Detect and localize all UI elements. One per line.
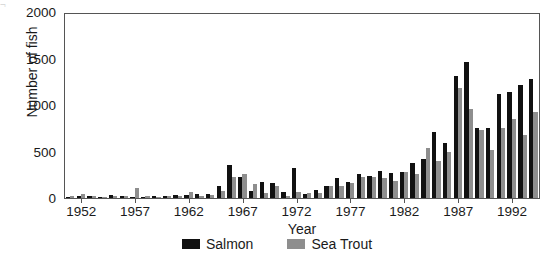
bar-sea-trout-1963 — [199, 196, 203, 198]
bar-sea-trout-1987 — [458, 88, 462, 198]
bar-sea-trout-1966 — [232, 177, 236, 198]
bar-sea-trout-1984 — [426, 148, 430, 198]
bar-sea-trout-1962 — [189, 192, 193, 198]
year-bar-group — [410, 14, 421, 198]
year-bar-group — [162, 14, 173, 198]
bar-sea-trout-1970 — [275, 186, 279, 198]
bar-sea-trout-1989 — [479, 130, 483, 198]
x-tick-mark — [297, 199, 298, 203]
bar-sea-trout-1960 — [167, 196, 171, 198]
y-tick-label: 0 — [0, 192, 64, 205]
year-bar-group — [442, 14, 453, 198]
legend-label: Salmon — [206, 236, 253, 252]
bar-sea-trout-1980 — [382, 178, 386, 198]
year-bar-group — [248, 14, 259, 198]
x-tick-mark — [404, 199, 405, 203]
year-bar-group — [76, 14, 87, 198]
x-tick-mark — [135, 199, 136, 203]
year-bar-group — [507, 14, 518, 198]
bar-sea-trout-1969 — [264, 193, 268, 198]
x-tick-label: 1982 — [380, 205, 428, 219]
x-tick-label: 1977 — [326, 205, 374, 219]
x-tick-mark — [512, 199, 513, 203]
bar-sea-trout-1976 — [339, 186, 343, 198]
bar-sea-trout-1990 — [490, 150, 494, 198]
year-bar-group — [517, 14, 528, 198]
x-axis-title: Year — [64, 221, 540, 237]
year-bar-group — [485, 14, 496, 198]
bar-sea-trout-1992 — [512, 119, 516, 198]
year-bar-group — [140, 14, 151, 198]
legend-swatch-icon — [287, 239, 305, 249]
legend-label: Sea Trout — [311, 236, 372, 252]
year-bar-group — [313, 14, 324, 198]
bar-sea-trout-1983 — [415, 174, 419, 198]
bars-area — [65, 14, 539, 198]
chart-legend: SalmonSea Trout — [0, 236, 554, 252]
year-bar-group — [173, 14, 184, 198]
year-bar-group — [453, 14, 464, 198]
legend-item-salmon[interactable]: Salmon — [182, 236, 253, 252]
year-bar-group — [334, 14, 345, 198]
x-tick-label: 1952 — [57, 205, 105, 219]
year-bar-group — [216, 14, 227, 198]
bar-sea-trout-1988 — [469, 109, 473, 198]
x-tick-label: 1957 — [111, 205, 159, 219]
y-tick-label: 2000 — [0, 6, 64, 19]
bar-sea-trout-1986 — [447, 152, 451, 198]
year-bar-group — [270, 14, 281, 198]
year-bar-group — [130, 14, 141, 198]
x-tick-label: 1967 — [219, 205, 267, 219]
year-bar-group — [356, 14, 367, 198]
year-bar-group — [227, 14, 238, 198]
year-bar-group — [291, 14, 302, 198]
year-bar-group — [431, 14, 442, 198]
x-tick-label: 1987 — [434, 205, 482, 219]
year-bar-group — [194, 14, 205, 198]
bar-sea-trout-1965 — [221, 191, 225, 198]
bar-sea-trout-1981 — [393, 181, 397, 198]
bar-sea-trout-1978 — [361, 177, 365, 198]
bar-sea-trout-1964 — [210, 195, 214, 198]
bar-sea-trout-1973 — [307, 193, 311, 198]
x-tick-mark — [458, 199, 459, 203]
bar-sea-trout-1955 — [113, 196, 117, 198]
year-bar-group — [302, 14, 313, 198]
year-bar-group — [464, 14, 475, 198]
year-bar-group — [119, 14, 130, 198]
y-tick-label: 500 — [0, 146, 64, 159]
year-bar-group — [345, 14, 356, 198]
x-tick-mark — [243, 199, 244, 203]
year-bar-group — [324, 14, 335, 198]
year-bar-group — [108, 14, 119, 198]
year-bar-group — [280, 14, 291, 198]
year-bar-group — [205, 14, 216, 198]
year-bar-group — [399, 14, 410, 198]
y-tick-label: 1000 — [0, 99, 64, 112]
x-tick-label: 1972 — [273, 205, 321, 219]
year-bar-group — [496, 14, 507, 198]
bar-sea-trout-1956 — [124, 196, 128, 198]
year-bar-group — [151, 14, 162, 198]
bar-sea-trout-1961 — [178, 196, 182, 198]
bar-sea-trout-1967 — [242, 174, 246, 198]
legend-item-sea-trout[interactable]: Sea Trout — [287, 236, 372, 252]
year-bar-group — [184, 14, 195, 198]
y-tick-label: 1500 — [0, 53, 64, 66]
bar-sea-trout-1993 — [523, 135, 527, 198]
bar-sea-trout-1952 — [81, 194, 85, 198]
year-bar-group — [97, 14, 108, 198]
legend-swatch-icon — [182, 239, 200, 249]
year-bar-group — [65, 14, 76, 198]
bar-sea-trout-1959 — [156, 197, 160, 198]
bar-sea-trout-1975 — [329, 186, 333, 198]
x-tick-mark — [350, 199, 351, 203]
bar-sea-trout-1972 — [296, 192, 300, 198]
year-bar-group — [377, 14, 388, 198]
fish-counts-bar-chart: ¬ Number of fish 0500100015002000 195219… — [0, 0, 554, 264]
year-bar-group — [474, 14, 485, 198]
bar-sea-trout-1958 — [145, 196, 149, 198]
bar-sea-trout-1954 — [102, 197, 106, 198]
year-bar-group — [259, 14, 270, 198]
bar-sea-trout-1953 — [92, 196, 96, 198]
